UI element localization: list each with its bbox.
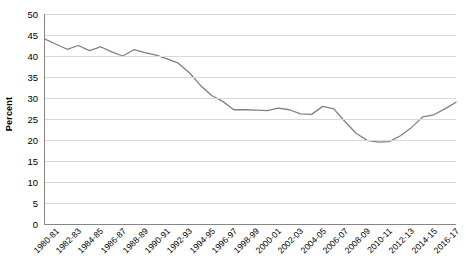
y-axis-line xyxy=(44,14,45,225)
plot-area xyxy=(45,14,456,224)
gridline xyxy=(45,119,456,120)
y-axis-tick-labels: 50454035302520151050 xyxy=(18,0,42,240)
line-chart: Percent 50454035302520151050 1980-811982… xyxy=(0,0,466,279)
y-axis-tick-label: 35 xyxy=(27,72,38,83)
y-axis-title-label: Percent xyxy=(4,97,14,131)
x-axis-tick-labels: 1980-811982-831984-851986-871988-891990-… xyxy=(45,226,460,279)
gridline xyxy=(45,203,456,204)
y-axis-tick-label: 25 xyxy=(27,114,38,125)
series-polyline xyxy=(45,39,456,142)
y-axis-tick-label: 50 xyxy=(27,9,38,20)
y-axis-tick-label: 10 xyxy=(27,177,38,188)
y-axis-title: Percent xyxy=(0,0,18,228)
gridline xyxy=(45,35,456,36)
gridline xyxy=(45,161,456,162)
y-axis-tick-label: 45 xyxy=(27,30,38,41)
y-axis-tick-label: 0 xyxy=(33,219,38,230)
y-axis-tick-label: 40 xyxy=(27,51,38,62)
y-axis-tick-label: 5 xyxy=(33,198,38,209)
y-axis-tick-label: 30 xyxy=(27,93,38,104)
gridline xyxy=(45,77,456,78)
gridline xyxy=(45,98,456,99)
gridline xyxy=(45,140,456,141)
gridline xyxy=(45,56,456,57)
y-axis-tick-label: 20 xyxy=(27,135,38,146)
gridline xyxy=(45,182,456,183)
gridline xyxy=(45,14,456,15)
y-axis-tick-label: 15 xyxy=(27,156,38,167)
